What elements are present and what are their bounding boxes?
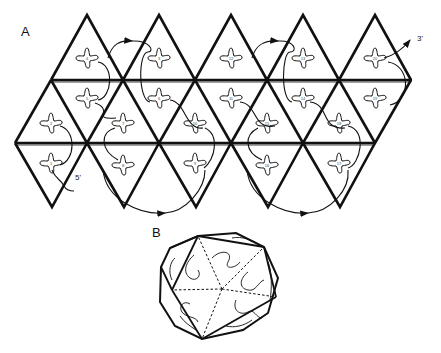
tri-number: 12 xyxy=(229,56,234,61)
tri-number: 2 xyxy=(50,121,53,126)
tri-number: 20 xyxy=(373,56,378,61)
tri-number: 4 xyxy=(86,56,89,61)
tri-number: 11 xyxy=(229,96,234,101)
tri-number: 19 xyxy=(373,96,378,101)
tri-number: 16 xyxy=(265,163,270,168)
tri-number: 3 xyxy=(158,56,161,61)
tri-number: 17 xyxy=(337,161,342,166)
tri-number: 1 xyxy=(50,161,53,166)
tri-number: 9 xyxy=(194,161,197,166)
tri-number: 13 xyxy=(301,56,306,61)
tri-number: 6 xyxy=(158,96,161,101)
icosahedron-net-diagram: 4 3 12 13 20 5 6 11 14 19 2 7 10 15 18 1… xyxy=(0,0,441,353)
tri-number: 18 xyxy=(337,121,342,126)
tri-number: 7 xyxy=(122,121,125,126)
tri-number: 14 xyxy=(301,96,306,101)
net-lines xyxy=(15,15,412,207)
icosahedron-folded xyxy=(160,233,278,339)
tri-number: 8 xyxy=(122,163,125,168)
connector-curves xyxy=(52,40,410,213)
tri-number: 5 xyxy=(86,96,89,101)
